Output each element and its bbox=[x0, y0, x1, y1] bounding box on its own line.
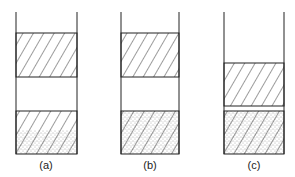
diagram-canvas bbox=[0, 0, 295, 177]
lower-hatched-layer bbox=[16, 111, 77, 154]
upper-hatched-layer bbox=[224, 63, 284, 106]
panel-b bbox=[121, 12, 179, 154]
upper-hatched-layer bbox=[16, 33, 77, 77]
lower-hatched-layer bbox=[121, 111, 179, 154]
panel-b-label: (b) bbox=[143, 159, 156, 171]
panel-a bbox=[16, 12, 77, 154]
panel-c-label: (c) bbox=[248, 159, 261, 171]
panel-c bbox=[224, 12, 284, 154]
lower-hatched-layer bbox=[224, 111, 284, 154]
upper-hatched-layer bbox=[121, 33, 179, 77]
panel-a-label: (a) bbox=[39, 159, 52, 171]
